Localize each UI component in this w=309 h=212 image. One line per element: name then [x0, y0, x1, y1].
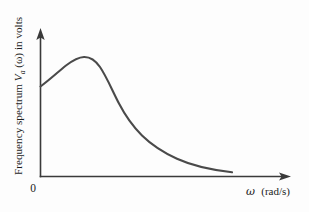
- y-axis-label-prefix: Frequency spectrum: [12, 81, 24, 175]
- y-axis-label-argument: (ω) in volts: [12, 17, 25, 71]
- frequency-spectrum-figure: 0 ω (rad/s) Frequency spectrum Va (ω) in…: [0, 0, 309, 212]
- origin-label: 0: [30, 182, 36, 194]
- chart-svg: 0 ω (rad/s) Frequency spectrum Va (ω) in…: [0, 0, 309, 212]
- x-axis-omega-symbol: ω: [246, 185, 255, 198]
- x-axis-units: (rad/s): [261, 185, 290, 198]
- x-axis-label: ω (rad/s): [246, 185, 290, 198]
- figure-background: [0, 0, 309, 212]
